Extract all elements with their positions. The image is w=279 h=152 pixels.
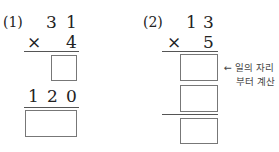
hint-line-2-wrap: 부터 계산 [236, 75, 275, 88]
problem-2-answer-box-1[interactable] [180, 54, 218, 81]
hint-line-1: 일의 자리 [235, 62, 274, 73]
problem-1-multiplier: 4 [66, 34, 77, 51]
problem-1-multiplicand-tens: 3 [46, 14, 57, 31]
problem-1-partial-hundreds: 1 [28, 88, 39, 105]
problem-1-multiplicand-ones: 1 [66, 14, 77, 31]
problem-1-partial-ones: 0 [66, 88, 77, 105]
left-arrow-icon: ← [224, 62, 232, 73]
problem-1-line-2 [24, 107, 79, 108]
problem-1-times-sign: × [27, 34, 41, 51]
problem-1-answer-box-2[interactable] [25, 110, 77, 137]
problem-1-label: (1) [3, 15, 23, 29]
problem-1-partial-tens: 2 [47, 88, 58, 105]
problem-2-label: (2) [143, 15, 163, 29]
problem-2-multiplicand-ones: 3 [203, 14, 214, 31]
problem-2-answer-box-3[interactable] [180, 118, 218, 144]
problem-2-times-sign: × [167, 34, 181, 51]
problem-1-line-1 [24, 51, 79, 52]
hint-line-2: 부터 계산 [236, 76, 275, 87]
problem-1-answer-box-1[interactable] [51, 55, 77, 81]
hint-note: ← 일의 자리 [224, 61, 274, 74]
problem-2-line-1 [162, 51, 218, 52]
problem-2-line-2 [162, 114, 218, 115]
problem-2-answer-box-2[interactable] [180, 85, 218, 112]
problem-2-multiplier: 5 [203, 34, 214, 51]
problem-2-multiplicand-tens: 1 [186, 14, 197, 31]
